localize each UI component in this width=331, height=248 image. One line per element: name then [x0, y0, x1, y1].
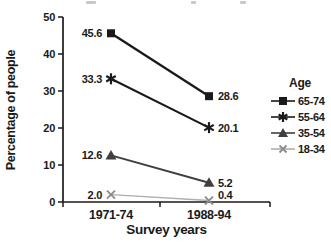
data-point-square-marker	[107, 29, 115, 37]
y-tick-label: 20	[43, 122, 55, 134]
legend-label: 18-34	[298, 143, 325, 155]
data-point-label: 12.6	[82, 149, 102, 161]
y-tick-label: 0	[49, 196, 55, 208]
legend-items: 65-7455-6435-5418-34	[270, 93, 330, 157]
series-line	[111, 155, 209, 182]
legend-item: 65-74	[270, 93, 330, 109]
square-legend-marker	[279, 97, 287, 105]
legend-title: Age	[270, 76, 330, 90]
y-tick-label: 50	[43, 11, 55, 23]
y-tick-label: 30	[43, 85, 55, 97]
data-point-label: 2.0	[88, 189, 103, 201]
star-legend-icon	[270, 110, 296, 124]
x-axis-title: Survey years	[63, 222, 270, 237]
xcross-legend-icon	[270, 142, 296, 156]
data-point-label: 45.6	[82, 27, 102, 39]
legend-label: 55-64	[298, 111, 325, 123]
data-point-label: 33.3	[82, 73, 102, 85]
data-point-label: 0.4	[218, 189, 234, 201]
data-point-square-marker	[205, 92, 213, 100]
legend: Age 65-7455-6435-5418-34	[270, 76, 330, 157]
data-point-label: 20.1	[218, 122, 238, 134]
y-tick-label: 40	[43, 48, 55, 60]
series-line	[111, 195, 209, 201]
square-legend-icon	[270, 94, 296, 108]
x-tick-label: 1988-94	[187, 208, 231, 222]
data-point-label: 28.6	[218, 90, 238, 102]
legend-item: 18-34	[270, 141, 330, 157]
line-chart-figure: 010203040501971-741988-9445.628.633.320.…	[0, 0, 331, 248]
data-point-triangle-marker	[106, 150, 117, 160]
triangle-legend-icon	[270, 126, 296, 140]
data-point-label: 5.2	[218, 177, 233, 189]
y-axis-title: Percentage of people	[4, 20, 20, 200]
y-tick-label: 10	[43, 159, 55, 171]
legend-item: 55-64	[270, 109, 330, 125]
legend-item: 35-54	[270, 125, 330, 141]
legend-label: 65-74	[298, 95, 325, 107]
legend-label: 35-54	[298, 127, 325, 139]
x-tick-label: 1971-74	[89, 208, 133, 222]
